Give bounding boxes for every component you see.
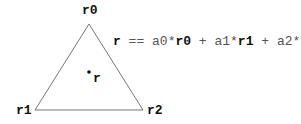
formula-vec-2: r2 bbox=[300, 34, 301, 49]
barycentric-formula: r == a0*r0 + a1*r1 + a2*r2 bbox=[113, 35, 301, 49]
vertex-label-r1: r1 bbox=[16, 104, 32, 117]
point-label-r: r bbox=[93, 72, 101, 85]
formula-coef-2: a2* bbox=[277, 34, 300, 49]
vertex-label-r2: r2 bbox=[147, 104, 163, 117]
formula-eq: == bbox=[121, 34, 152, 49]
formula-coef-1: a1* bbox=[214, 34, 237, 49]
formula-plus-2: + bbox=[253, 34, 276, 49]
formula-coef-0: a0* bbox=[152, 34, 175, 49]
vertex-label-r0: r0 bbox=[82, 4, 98, 17]
formula-lhs: r bbox=[113, 34, 121, 49]
formula-plus-1: + bbox=[191, 34, 214, 49]
formula-vec-0: r0 bbox=[175, 34, 191, 49]
formula-vec-1: r1 bbox=[238, 34, 254, 49]
point-r-dot bbox=[87, 70, 91, 74]
